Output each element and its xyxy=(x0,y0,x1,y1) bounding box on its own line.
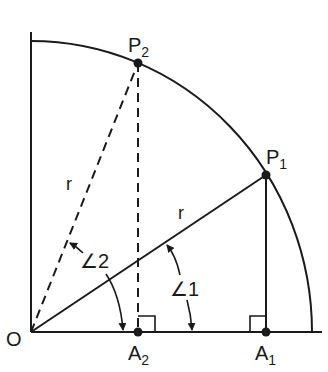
point-a1 xyxy=(262,328,271,337)
point-p1 xyxy=(262,171,271,180)
angle1-arrow-upper xyxy=(167,245,180,275)
label-radius-solid: r xyxy=(178,203,184,223)
label-p2: P2 xyxy=(128,34,149,60)
radius-op1 xyxy=(31,175,266,332)
label-a2: A2 xyxy=(128,342,149,368)
point-a2 xyxy=(134,328,143,337)
radius-op2-dashed xyxy=(31,63,138,332)
label-a1: A1 xyxy=(255,342,276,368)
diagram-canvas: O P2 P1 A2 A1 r r ∠2 ∠1 xyxy=(0,0,328,372)
label-origin: O xyxy=(6,328,22,350)
label-p1: P1 xyxy=(266,146,287,172)
angle2-arrow-lower xyxy=(106,274,123,330)
label-radius-dashed: r xyxy=(66,174,72,194)
label-angle1: ∠1 xyxy=(170,278,199,300)
label-angle2: ∠2 xyxy=(80,250,109,272)
angle1-arrow-lower xyxy=(187,300,192,330)
